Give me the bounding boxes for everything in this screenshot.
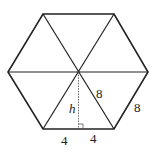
label-half-base-left: 4	[61, 133, 68, 148]
label-radius-8: 8	[96, 86, 103, 101]
label-side-8: 8	[134, 100, 141, 115]
label-h: h	[69, 101, 76, 116]
label-half-base-right: 4	[90, 131, 97, 146]
hexagon-diagram: h 8 8 4 4	[0, 0, 161, 156]
